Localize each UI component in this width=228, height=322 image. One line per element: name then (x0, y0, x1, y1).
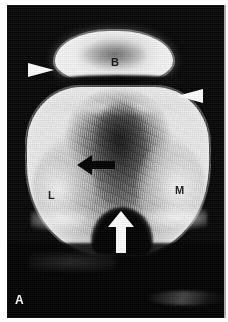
label-medial-m: M (175, 185, 184, 196)
white-arrow-icon (107, 211, 135, 253)
panel-label-a: A (15, 294, 24, 306)
label-lateral-l: L (48, 190, 55, 201)
radiograph-image: B L M A (7, 5, 226, 318)
soft-tissue-streak (147, 291, 226, 305)
white-arrowhead-left-icon (28, 63, 54, 77)
soft-tissue-mottle (29, 253, 115, 271)
black-arrow-icon (77, 153, 115, 177)
plate-edge-right (224, 5, 226, 318)
figure-page: B L M A (0, 0, 228, 322)
white-arrowhead-right-icon (177, 89, 203, 103)
label-patella-b: B (111, 57, 119, 68)
